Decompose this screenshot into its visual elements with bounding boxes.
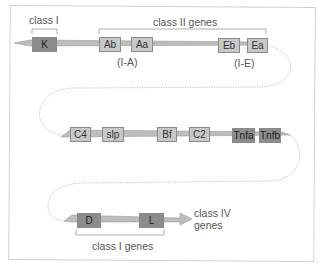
bracket-class-II [99,29,266,34]
label-class-IV: class IV [194,208,231,219]
gene-C2: C2 [189,127,210,142]
gene-D: D [77,213,101,228]
gene-Ea: Ea [247,38,268,53]
gene-Aa: Aa [131,37,153,52]
label-class-I: class I [29,15,59,26]
label-I-A: (I-A) [117,57,137,68]
label-class-II-genes: class II genes [153,17,217,28]
gene-Ab: Ab [99,37,121,52]
gene-Bf: Bf [157,127,177,142]
gene-Eb: Eb [218,38,240,53]
gene-L: L [139,213,164,228]
gene-Tnfa: Tnfa [232,128,255,143]
bracket-class-I-genes [76,230,164,235]
gene-C4: C4 [70,127,91,142]
label-genes: genes [194,220,223,231]
gene-Tnfb: Tnfb [259,128,281,143]
label-class-I-genes: class I genes [92,241,153,252]
bracket-class-I [32,29,57,34]
loop-2 [48,135,300,221]
gene-slp: slp [102,127,124,142]
gene-K: K [32,37,57,52]
label-I-E: (I-E) [234,58,254,69]
